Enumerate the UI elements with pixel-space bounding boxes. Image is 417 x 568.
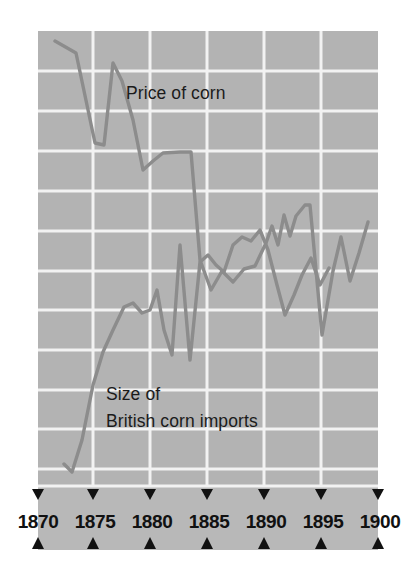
imports-label-line-1: Size of: [106, 384, 160, 404]
chart-figure: Price of corn Size of British corn impor…: [0, 0, 417, 568]
price-of-corn-label: Price of corn: [126, 83, 226, 103]
x-tick-label-1880: 1880: [132, 511, 173, 532]
x-tick-label-1895: 1895: [303, 511, 345, 532]
x-tick-label-1870: 1870: [18, 511, 59, 532]
x-tick-label-1900: 1900: [360, 511, 401, 532]
x-tick-label-1890: 1890: [246, 511, 287, 532]
x-axis-tick-labels: 1870 1875 1880 1885 1890 1895 1900: [18, 511, 401, 532]
corn-price-imports-line-chart: Price of corn Size of British corn impor…: [0, 0, 417, 568]
imports-label-line-2: British corn imports: [106, 411, 258, 431]
x-tick-label-1875: 1875: [75, 511, 117, 532]
x-tick-label-1885: 1885: [189, 511, 231, 532]
